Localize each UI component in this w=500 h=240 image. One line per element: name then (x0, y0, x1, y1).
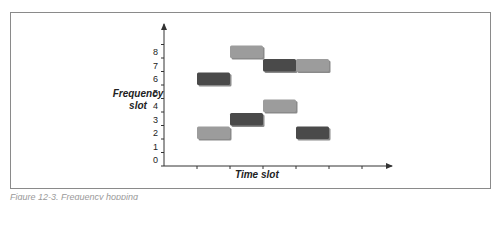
figure-caption: Figure 12-3. Frequency hopping (10, 192, 138, 200)
y-axis-label: Frequency slot (112, 88, 164, 112)
y-tick-label: 3 (153, 115, 158, 125)
hop-bar (263, 59, 296, 72)
hop-bar (296, 59, 329, 72)
hop-bar (263, 100, 296, 113)
x-axis-label: Time slot (235, 169, 279, 180)
y-tick-label: 8 (153, 47, 158, 57)
axis-ticks: 012345678 (153, 45, 362, 170)
y-axis-label-line1: Frequency (112, 88, 164, 100)
hop-bar (197, 73, 230, 86)
hop-bar (197, 127, 230, 140)
y-tick-label: 7 (153, 61, 158, 71)
y-tick-label: 6 (153, 74, 158, 84)
hop-bars (197, 46, 331, 141)
y-tick-label: 1 (153, 142, 158, 152)
y-tick-label: 0 (153, 155, 158, 165)
y-axis-label-line2: slot (112, 100, 164, 112)
hop-bar (230, 46, 263, 59)
y-tick-label: 2 (153, 128, 158, 138)
hop-bar (230, 113, 263, 126)
hop-bar (296, 127, 329, 140)
